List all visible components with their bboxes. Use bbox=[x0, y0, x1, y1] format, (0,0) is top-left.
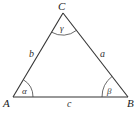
vertex-label-c: C bbox=[58, 0, 66, 12]
side-label-a: a bbox=[100, 48, 105, 59]
angle-label-beta: β bbox=[106, 86, 112, 96]
side-label-c: c bbox=[67, 98, 72, 109]
side-label-b: b bbox=[29, 48, 34, 59]
angle-gamma-arc bbox=[52, 30, 77, 35]
triangle-diagram: C A B b a c γ α β bbox=[0, 0, 137, 113]
angle-label-gamma: γ bbox=[60, 23, 64, 33]
angle-label-alpha: α bbox=[22, 86, 27, 96]
side-b-line bbox=[13, 13, 63, 97]
side-a-line bbox=[63, 13, 128, 97]
vertex-label-a: A bbox=[2, 97, 10, 109]
vertex-label-b: B bbox=[127, 97, 134, 109]
